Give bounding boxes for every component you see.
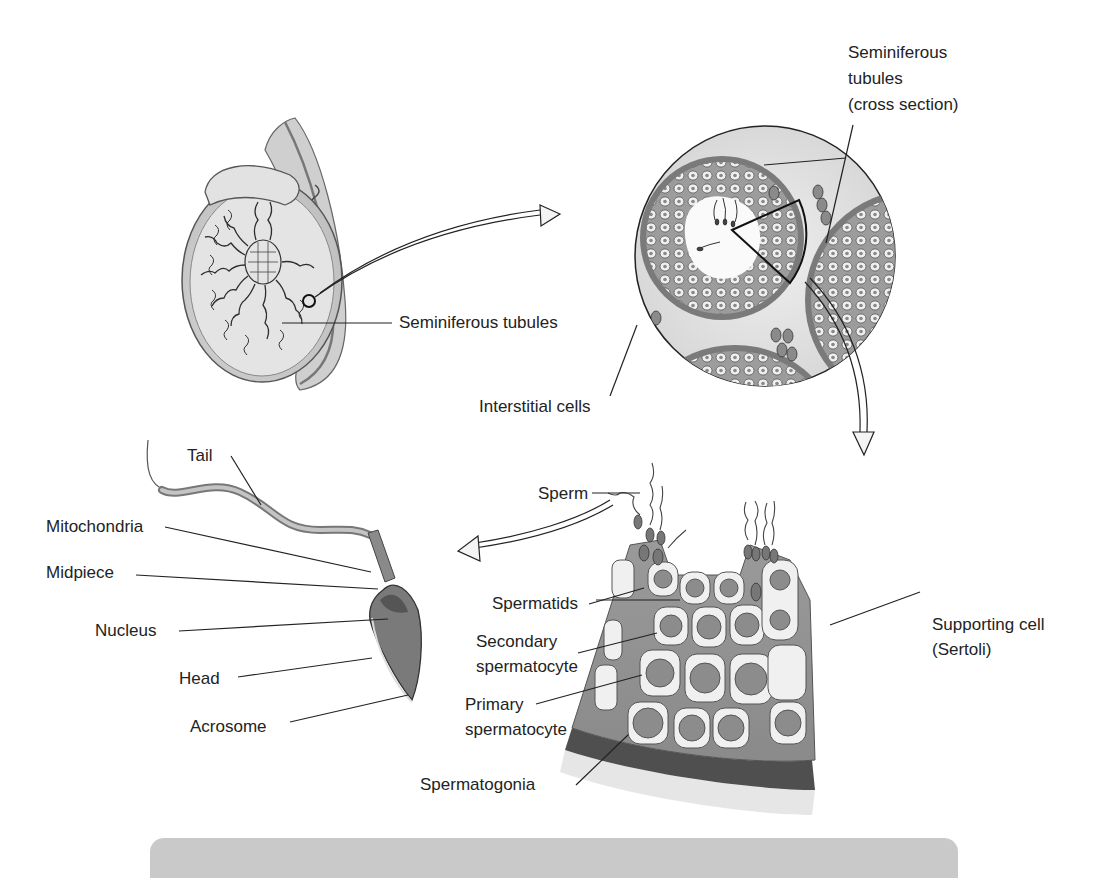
label-spermatids: Spermatids [492,593,578,614]
label-tail: Tail [187,445,213,466]
label-primary-spermatocyte-line1: Primary [465,694,524,715]
label-sperm: Sperm [538,483,588,504]
label-spermatogonia: Spermatogonia [420,774,535,795]
label-supporting-cell-line2: (Sertoli) [932,639,992,660]
label-secondary-spermatocyte-line2: spermatocyte [476,656,578,677]
caption-bar [150,838,958,878]
cross-section-illustration [625,126,1025,565]
label-mitochondria: Mitochondria [46,516,143,537]
label-secondary-spermatocyte-line1: Secondary [476,631,557,652]
sperm-illustration [147,440,421,702]
label-seminiferous-cross-line3: (cross section) [848,94,959,115]
label-acrosome: Acrosome [190,716,267,737]
label-head: Head [179,668,220,689]
label-midpiece: Midpiece [46,562,114,583]
label-seminiferous-tubules: Seminiferous tubules [399,312,558,333]
tubule-wall-illustration [560,463,815,815]
flow-arrow-testis-to-cross-section [315,205,560,297]
label-seminiferous-cross-line1: Seminiferous [848,42,947,63]
label-primary-spermatocyte-line2: spermatocyte [465,719,567,740]
label-nucleus: Nucleus [95,620,156,641]
label-interstitial-cells: Interstitial cells [479,396,590,417]
label-seminiferous-cross-line2: tubules [848,68,903,89]
testis-illustration [182,118,346,390]
flow-arrow-wall-to-sperm [458,500,613,561]
label-supporting-cell-line1: Supporting cell [932,614,1044,635]
